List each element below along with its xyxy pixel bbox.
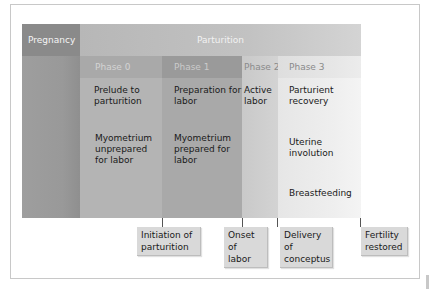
event-delivery-of-conceptus: Delivery of conceptus	[280, 227, 333, 268]
event-initiation-of-parturition: Initiation of parturition	[137, 227, 201, 256]
event-label: Onset of labor	[228, 230, 255, 264]
phase-3-line-2: Uterine involution	[289, 137, 355, 159]
phase-0-line-2: Myometrium unprepared for labor	[95, 133, 157, 166]
parturition-label: Parturition	[80, 35, 361, 46]
tick-delivery	[277, 218, 278, 227]
event-label: Delivery of conceptus	[284, 230, 330, 264]
phase-3-line-3: Breastfeeding	[289, 188, 359, 199]
phase-3-label: Phase 3	[289, 62, 324, 73]
phase-0-label: Phase 0	[95, 62, 130, 73]
pregnancy-body	[22, 56, 80, 218]
phase-2-line-1: Active labor	[244, 85, 276, 107]
pregnancy-label: Pregnancy	[28, 35, 75, 46]
phase-1-line-2: Myometrium prepared for labor	[174, 133, 234, 166]
phase-2-label: Phase 2	[244, 62, 279, 73]
phase-1-label: Phase 1	[174, 62, 209, 73]
tick-onset	[242, 218, 243, 227]
phase-3-line-1: Parturient recovery	[289, 85, 355, 107]
event-onset-of-labor: Onset of labor	[224, 227, 268, 268]
phase-0-line-1: Prelude to parturition	[94, 85, 156, 107]
tick-initiation	[162, 218, 163, 227]
event-fertility-restored: Fertility restored	[361, 227, 408, 256]
event-label: Initiation of parturition	[141, 230, 192, 252]
phase-2-column	[242, 56, 278, 218]
event-label: Fertility restored	[365, 230, 403, 252]
phase-1-line-1: Preparation for labor	[174, 85, 242, 107]
tick-fertility	[360, 218, 361, 227]
